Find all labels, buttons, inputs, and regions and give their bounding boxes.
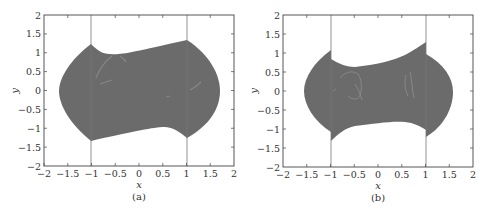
svg-text:1: 1 xyxy=(422,169,428,180)
svg-text:−2: −2 xyxy=(266,162,280,173)
svg-text:1: 1 xyxy=(35,47,41,58)
svg-text:−0.5: −0.5 xyxy=(343,169,366,180)
svg-text:2: 2 xyxy=(274,10,280,21)
svg-text:0: 0 xyxy=(274,86,280,97)
svg-text:−1.5: −1.5 xyxy=(56,168,79,179)
svg-text:2: 2 xyxy=(35,10,41,21)
xlabel-b: x xyxy=(375,180,381,191)
svg-text:−1: −1 xyxy=(84,168,98,179)
svg-text:0.5: 0.5 xyxy=(26,66,41,77)
svg-text:−1: −1 xyxy=(266,124,280,135)
svg-text:−1: −1 xyxy=(323,169,337,180)
svg-text:−1: −1 xyxy=(27,123,41,134)
svg-text:0: 0 xyxy=(136,168,142,179)
svg-text:2: 2 xyxy=(231,168,237,179)
svg-text:−0.5: −0.5 xyxy=(104,168,127,179)
svg-text:0.5: 0.5 xyxy=(155,168,170,179)
svg-text:−1.5: −1.5 xyxy=(295,169,318,180)
svg-text:1: 1 xyxy=(274,48,280,59)
svg-text:1: 1 xyxy=(183,168,189,179)
svg-text:0: 0 xyxy=(375,169,381,180)
xtick-labels-b: −2 −1.5 −1 −0.5 0 0.5 1 1.5 2 xyxy=(276,169,476,180)
svg-text:1.5: 1.5 xyxy=(265,29,280,40)
svg-text:−0.5: −0.5 xyxy=(18,104,41,115)
ylabel-b: y xyxy=(248,88,259,95)
xtick-labels-a: −2 −1.5 −1 −0.5 0 0.5 1 1.5 2 xyxy=(37,168,237,179)
svg-text:1.5: 1.5 xyxy=(26,28,41,39)
caption-a: (a) xyxy=(132,191,146,202)
ytick-labels-b: 2 1.5 1 0.5 0 −0.5 −1 −1.5 −2 xyxy=(257,10,280,173)
svg-text:0.5: 0.5 xyxy=(394,169,409,180)
xlabel-a: x xyxy=(136,179,142,190)
region-b xyxy=(304,42,453,141)
svg-text:0.5: 0.5 xyxy=(265,67,280,78)
svg-text:−2: −2 xyxy=(27,161,41,172)
caption-b: (b) xyxy=(371,192,385,203)
region-a xyxy=(59,40,220,141)
figure: −2 −1.5 −1 −0.5 0 0.5 1 1.5 2 2 1.5 1 0.… xyxy=(0,0,489,216)
svg-text:1.5: 1.5 xyxy=(442,169,457,180)
svg-text:1.5: 1.5 xyxy=(203,168,218,179)
panel-b: −2 −1.5 −1 −0.5 0 0.5 1 1.5 2 2 1.5 1 0.… xyxy=(248,10,476,204)
svg-text:−1.5: −1.5 xyxy=(18,142,41,153)
svg-text:−0.5: −0.5 xyxy=(257,105,280,116)
ylabel-a: y xyxy=(9,88,20,95)
panel-a: −2 −1.5 −1 −0.5 0 0.5 1 1.5 2 2 1.5 1 0.… xyxy=(9,10,237,203)
ytick-labels-a: 2 1.5 1 0.5 0 −0.5 −1 −1.5 −2 xyxy=(18,10,41,172)
svg-text:2: 2 xyxy=(470,169,476,180)
svg-text:−1.5: −1.5 xyxy=(257,143,280,154)
svg-text:0: 0 xyxy=(35,85,41,96)
